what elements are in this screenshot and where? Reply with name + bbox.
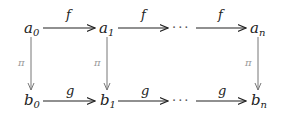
label-f-2: f <box>218 8 223 21</box>
ellipsis-bottom: ··· <box>172 94 190 107</box>
label-pi-0: π <box>18 58 25 68</box>
label-g-2: g <box>218 84 226 97</box>
label-pi-n: π <box>245 58 252 68</box>
label-g-1: g <box>141 84 149 97</box>
node-an: an <box>250 21 265 38</box>
node-a1: a1 <box>99 21 114 38</box>
label-f-1: f <box>141 8 146 21</box>
label-pi-1: π <box>94 58 101 68</box>
node-a0: a0 <box>24 21 39 38</box>
node-b1: b1 <box>100 93 116 110</box>
node-b0: b0 <box>24 93 40 110</box>
label-g-0: g <box>66 84 74 97</box>
ellipsis-top: ··· <box>172 21 190 34</box>
label-f-0: f <box>66 8 71 21</box>
node-bn: bn <box>251 93 267 110</box>
